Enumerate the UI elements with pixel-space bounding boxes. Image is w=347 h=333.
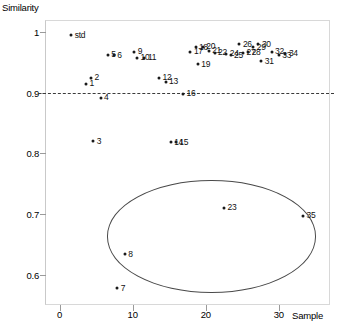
data-point xyxy=(257,43,260,46)
data-point-label: 30 xyxy=(262,39,271,49)
data-point xyxy=(112,54,115,57)
data-point-label: std xyxy=(75,30,85,40)
data-point xyxy=(84,82,87,85)
data-point xyxy=(223,206,226,209)
data-point xyxy=(123,253,126,256)
data-point xyxy=(99,96,102,99)
data-point xyxy=(277,54,280,57)
data-point xyxy=(92,140,95,143)
data-point xyxy=(182,92,185,95)
outlier-cluster-ellipse xyxy=(107,180,315,292)
similarity-scatter-chart: Similarity Sample 0.60.70.80.91 0102030 … xyxy=(0,0,347,333)
data-point xyxy=(201,45,204,48)
data-point-label: 11 xyxy=(148,52,156,62)
data-point xyxy=(284,52,287,55)
data-point xyxy=(106,53,109,56)
data-point xyxy=(164,80,167,83)
y-tick-mark xyxy=(40,32,46,33)
data-point-label: 3 xyxy=(97,136,101,146)
data-point xyxy=(238,43,241,46)
data-point xyxy=(213,51,216,54)
data-point xyxy=(116,287,119,290)
data-point xyxy=(242,51,245,54)
data-point xyxy=(260,60,263,63)
y-tick-label: 0.6 xyxy=(5,269,39,280)
y-tick-mark xyxy=(40,214,46,215)
data-point xyxy=(252,46,255,49)
data-point xyxy=(225,52,228,55)
data-point-label: 16 xyxy=(187,88,196,98)
x-tick-mark xyxy=(133,305,134,311)
data-point xyxy=(136,56,139,59)
y-tick-mark xyxy=(40,275,46,276)
data-point xyxy=(174,141,177,144)
data-point xyxy=(90,76,93,79)
data-point-label: 13 xyxy=(169,76,178,86)
data-point-label: 8 xyxy=(128,249,132,259)
data-point-label: 1 xyxy=(89,78,93,88)
data-point xyxy=(143,56,146,59)
y-tick-label: 0.7 xyxy=(5,209,39,220)
data-point xyxy=(169,141,172,144)
data-point-label: 2 xyxy=(95,72,99,82)
x-axis-title: Sample xyxy=(292,310,323,321)
y-axis-title: Similarity xyxy=(2,2,39,13)
x-tick-mark xyxy=(206,305,207,311)
data-point-label: 6 xyxy=(117,50,121,60)
data-point xyxy=(189,50,192,53)
data-point xyxy=(194,46,197,49)
data-point xyxy=(247,51,250,54)
data-point-label: 7 xyxy=(121,283,125,293)
data-point-label: 35 xyxy=(306,210,315,220)
data-point-label: 34 xyxy=(289,48,298,58)
data-point xyxy=(158,76,161,79)
y-tick-label: 0.9 xyxy=(5,87,39,98)
data-point-label: 31 xyxy=(265,56,274,66)
data-point xyxy=(301,214,304,217)
data-point xyxy=(133,50,136,53)
data-point xyxy=(70,34,73,37)
data-point-label: 4 xyxy=(104,92,108,102)
data-point-label: 15 xyxy=(179,137,188,147)
y-tick-label: 0.8 xyxy=(5,148,39,159)
x-tick-mark xyxy=(60,305,61,311)
data-point-label: 23 xyxy=(228,202,237,212)
y-tick-label: 1 xyxy=(5,27,39,38)
data-point xyxy=(196,63,199,66)
data-point xyxy=(229,54,232,57)
y-tick-mark xyxy=(40,153,46,154)
data-point-label: 19 xyxy=(201,59,210,69)
data-point xyxy=(207,49,210,52)
x-tick-mark xyxy=(279,305,280,311)
data-point xyxy=(270,50,273,53)
